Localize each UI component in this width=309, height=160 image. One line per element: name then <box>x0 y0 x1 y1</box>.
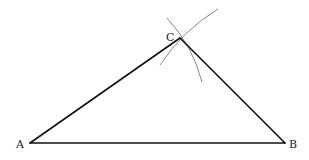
arc-from-b <box>167 18 202 82</box>
vertex-label-c: C <box>166 31 174 44</box>
triangle-diagram: A B C <box>0 0 309 160</box>
side-ca <box>30 38 180 143</box>
vertex-label-b: B <box>289 138 297 151</box>
vertex-label-a: A <box>15 138 25 151</box>
side-bc <box>180 38 285 143</box>
